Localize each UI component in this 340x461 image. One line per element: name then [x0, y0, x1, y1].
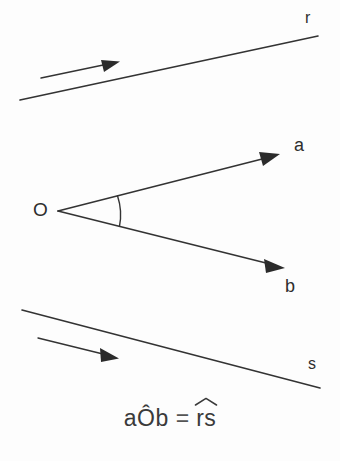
direction-arrow-s-head — [100, 348, 119, 362]
label-line-r: r — [305, 10, 310, 26]
angle-equality-formula: aÔb=rs — [0, 406, 340, 430]
diagram-canvas — [0, 0, 340, 461]
formula-right-term: rs — [196, 405, 216, 431]
ray-a — [58, 158, 268, 212]
direction-arrow-s-shaft — [38, 338, 107, 355]
formula-right-term-group: rs — [196, 407, 216, 430]
label-line-s: s — [308, 356, 316, 372]
label-ray-b: b — [285, 277, 295, 295]
direction-arrow-r-shaft — [41, 64, 108, 78]
line-r — [20, 36, 318, 100]
ray-b — [58, 211, 272, 265]
direction-arrow-r-head — [101, 60, 120, 72]
label-ray-a: a — [294, 136, 304, 154]
formula-left-term: aÔb — [124, 405, 169, 431]
label-vertex-o: O — [33, 200, 48, 219]
formula-equals-sign: = — [169, 405, 196, 431]
angle-arc — [118, 196, 121, 226]
ray-b-arrowhead — [264, 259, 285, 273]
geometry-figure: r a O b s aÔb=rs — [0, 0, 340, 461]
line-s — [22, 310, 320, 388]
ray-a-arrowhead — [259, 152, 280, 166]
